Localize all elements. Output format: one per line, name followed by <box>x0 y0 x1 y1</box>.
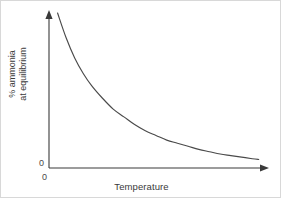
y-axis-label-line-1: % ammonia <box>7 20 18 128</box>
y-axis-label: % ammonia at equilibrium <box>7 20 29 128</box>
equilibrium-curve <box>58 13 259 159</box>
chart-figure: 0 0 % ammonia at equilibrium Temperature <box>0 0 281 198</box>
x-axis-arrow-icon <box>260 164 269 171</box>
x-axis-label: Temperature <box>1 181 281 192</box>
y-axis-label-line-2: at equilibrium <box>18 20 29 128</box>
chart-plot-area <box>1 1 281 198</box>
y-axis-zero-tick: 0 <box>39 159 44 168</box>
y-axis-arrow-icon <box>45 10 52 19</box>
